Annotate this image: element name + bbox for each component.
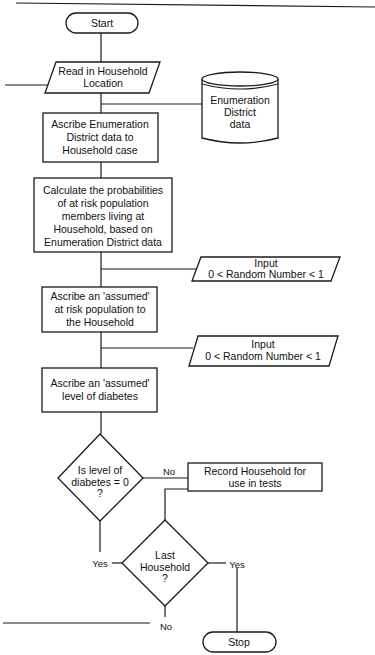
start-label: Start <box>91 17 113 29</box>
svg-text:Input: Input <box>251 338 274 350</box>
record-household-process: Record Household for use in tests <box>188 463 322 491</box>
svg-text:Enumeration District data: Enumeration District data <box>44 236 162 248</box>
svg-text:Ascribe Enumeration: Ascribe Enumeration <box>51 118 149 130</box>
svg-text:Record Household for: Record Household for <box>204 465 307 477</box>
svg-text:0 < Random Number < 1: 0 < Random Number < 1 <box>205 350 321 362</box>
svg-text:Last: Last <box>155 549 175 561</box>
stop-terminal: Stop <box>203 632 276 652</box>
svg-text:at risk population to: at risk population to <box>54 303 145 315</box>
svg-text:District: District <box>224 106 256 118</box>
svg-text:Ascribe an 'assumed': Ascribe an 'assumed' <box>50 290 149 302</box>
stop-label: Stop <box>228 636 250 648</box>
input-random-2-io: Input 0 < Random Number < 1 <box>189 336 338 366</box>
svg-text:Enumeration: Enumeration <box>210 94 270 106</box>
top-rule <box>16 3 375 7</box>
svg-text:of at risk population: of at risk population <box>57 197 148 209</box>
ascribe-diabetes-process: Ascribe an 'assumed' level of diabetes <box>42 368 157 412</box>
svg-text:Household, based on: Household, based on <box>53 223 152 235</box>
edge-label-diabetes-no: No <box>163 466 175 477</box>
svg-text:0 < Random Number < 1: 0 < Random Number < 1 <box>208 268 324 280</box>
ascribe-population-process: Ascribe an 'assumed' at risk population … <box>42 287 157 332</box>
svg-text:Is level of: Is level of <box>78 464 122 476</box>
edge-label-diabetes-yes: Yes <box>92 558 108 569</box>
start-terminal: Start <box>66 13 138 33</box>
enumeration-district-database: Enumeration District data <box>202 72 278 143</box>
svg-text:Calculate the probabilities: Calculate the probabilities <box>43 184 163 196</box>
svg-text:Ascribe an 'assumed': Ascribe an 'assumed' <box>50 377 149 389</box>
svg-text:data: data <box>230 118 251 130</box>
svg-text:Household case: Household case <box>62 144 137 156</box>
flowchart-canvas: Start Read in Household Location Enumera… <box>0 0 375 655</box>
calc-probabilities-process: Calculate the probabilities of at risk p… <box>34 178 172 252</box>
svg-text:members living at: members living at <box>62 210 144 222</box>
edge-label-last-yes: Yes <box>229 559 245 570</box>
read-location-io: Read in Household Location <box>45 62 160 93</box>
decision-last-household: Last Household ? <box>122 520 208 606</box>
svg-text:Location: Location <box>83 77 123 89</box>
svg-text:Read in Household: Read in Household <box>58 65 147 77</box>
svg-text:?: ? <box>97 487 103 499</box>
svg-text:the Household: the Household <box>66 316 134 328</box>
ascribe-ed-process: Ascribe Enumeration District data to Hou… <box>43 113 158 162</box>
edge-label-last-no: No <box>160 621 172 632</box>
svg-text:District data to: District data to <box>66 131 133 143</box>
svg-text:level of diabetes: level of diabetes <box>62 390 138 402</box>
svg-text:?: ? <box>162 572 168 584</box>
svg-text:use in tests: use in tests <box>228 477 281 489</box>
decision-diabetes-zero: Is level of diabetes = 0 ? <box>58 434 143 521</box>
input-random-1-io: Input 0 < Random Number < 1 <box>192 257 340 281</box>
